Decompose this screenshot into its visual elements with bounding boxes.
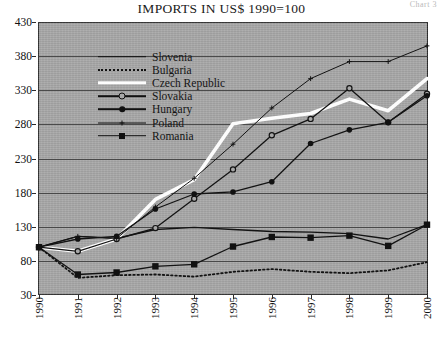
data-point	[386, 59, 391, 64]
x-axis-tick	[349, 295, 350, 299]
chart-page: Chart 3 IMPORTS IN US$ 1990=100 30801301…	[0, 0, 443, 338]
data-point	[307, 234, 313, 240]
legend-swatch	[96, 64, 148, 76]
data-point	[424, 222, 430, 228]
data-point	[152, 263, 158, 269]
data-point	[191, 191, 197, 197]
y-axis-tick-label: 280	[15, 118, 32, 130]
x-axis-tick-label: 1999	[382, 297, 394, 319]
legend-item-bulgaria[interactable]: Bulgaria	[96, 63, 246, 76]
y-axis-tick	[32, 90, 36, 91]
y-axis-tick-label: 80	[21, 255, 33, 267]
x-axis-tick	[117, 295, 118, 299]
data-point	[75, 249, 80, 254]
legend-swatch	[96, 103, 148, 115]
data-point	[385, 243, 391, 249]
data-point	[269, 133, 274, 138]
data-point	[113, 269, 119, 275]
data-point	[191, 261, 197, 267]
data-point	[346, 232, 352, 238]
legend-swatch	[96, 130, 148, 142]
legend-item-czech-republic[interactable]: Czech Republic	[96, 76, 246, 89]
legend-label: Slovakia	[152, 90, 192, 102]
plot-area: SloveniaBulgariaCzech RepublicSlovakiaHu…	[38, 22, 428, 295]
data-point	[153, 226, 158, 231]
legend-label: Hungary	[152, 103, 192, 115]
x-axis-tick	[233, 295, 234, 299]
data-point	[347, 86, 352, 91]
data-point	[269, 179, 275, 185]
y-axis-tick-label: 180	[15, 187, 32, 199]
data-point	[347, 59, 352, 64]
data-point	[269, 234, 275, 240]
data-point	[230, 243, 236, 249]
legend-item-slovenia[interactable]: Slovenia	[96, 50, 246, 63]
legend-label: Slovenia	[152, 51, 192, 63]
data-point	[230, 167, 235, 172]
legend-item-slovakia[interactable]: Slovakia	[96, 90, 246, 103]
data-point	[192, 196, 197, 201]
y-axis-tick-label: 130	[15, 221, 32, 233]
y-axis-tick-label: 380	[15, 50, 32, 62]
x-axis: 1990199119921993199419951996199719981999…	[38, 297, 428, 337]
chart-title: IMPORTS IN US$ 1990=100	[0, 1, 443, 17]
x-axis-tick-label: 1995	[227, 297, 239, 319]
legend-label: Romania	[152, 130, 194, 142]
x-axis-tick	[388, 295, 389, 299]
y-axis-tick-label: 230	[15, 153, 32, 165]
chart-legend: SloveniaBulgariaCzech RepublicSlovakiaHu…	[96, 50, 246, 142]
y-axis-tick-label: 430	[15, 16, 32, 28]
x-axis-tick	[155, 295, 156, 299]
y-axis-tick	[32, 227, 36, 228]
x-axis-tick-label: 2000	[421, 297, 433, 319]
y-axis-tick	[32, 159, 36, 160]
legend-item-hungary[interactable]: Hungary	[96, 103, 246, 116]
legend-swatch	[96, 117, 148, 129]
x-axis-tick-label: 1990	[33, 297, 45, 319]
x-axis-tick	[194, 295, 195, 299]
y-axis-tick-label: 330	[15, 84, 32, 96]
legend-swatch	[96, 51, 148, 63]
data-point	[424, 93, 430, 99]
x-axis-tick	[39, 295, 40, 299]
legend-label: Poland	[152, 117, 184, 129]
y-axis-tick	[32, 22, 36, 23]
legend-label: Bulgaria	[152, 64, 192, 76]
data-point	[75, 271, 81, 277]
y-axis-tick-label: 30	[21, 289, 33, 301]
data-point	[308, 116, 313, 121]
legend-item-romania[interactable]: Romania	[96, 129, 246, 142]
legend-swatch	[96, 77, 148, 89]
x-axis-tick	[427, 295, 428, 299]
x-axis-tick	[78, 295, 79, 299]
y-axis-tick	[32, 295, 36, 296]
legend-swatch	[96, 90, 148, 102]
y-axis-tick	[32, 261, 36, 262]
data-point	[230, 189, 236, 195]
data-point	[308, 141, 314, 147]
legend-item-poland[interactable]: Poland	[96, 116, 246, 129]
x-axis-tick-label: 1998	[343, 297, 355, 319]
data-point	[425, 43, 430, 48]
x-axis-tick-label: 1994	[188, 297, 200, 319]
y-axis-tick	[32, 56, 36, 57]
y-axis-tick	[32, 193, 36, 194]
legend-label: Czech Republic	[152, 77, 225, 89]
y-axis-tick	[32, 124, 36, 125]
x-axis-tick-label: 1993	[149, 297, 161, 319]
data-point	[36, 244, 42, 250]
x-axis-tick	[311, 295, 312, 299]
x-axis-tick-label: 1991	[72, 297, 84, 319]
x-axis-tick-label: 1992	[111, 297, 123, 319]
y-axis: 3080130180230280330380430	[0, 22, 36, 295]
x-axis-tick-label: 1997	[305, 297, 317, 319]
data-point	[347, 127, 353, 133]
data-point	[385, 120, 391, 126]
x-axis-tick	[272, 295, 273, 299]
x-axis-tick-label: 1996	[266, 297, 278, 319]
